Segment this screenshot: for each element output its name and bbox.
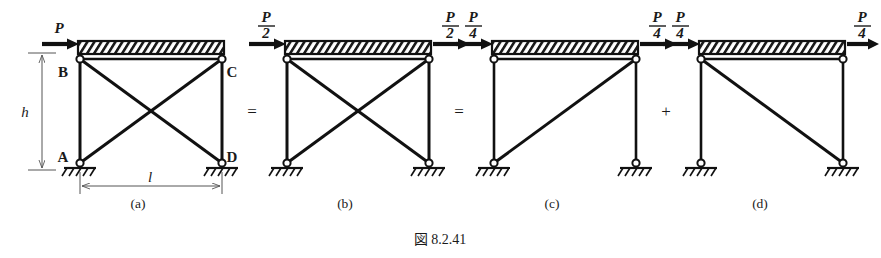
force-denominator-b-right: 2	[445, 25, 454, 41]
force-denominator-d-right: 4	[857, 25, 866, 41]
force-numerator-b-right: P	[445, 9, 455, 25]
rigid-beam-a	[78, 41, 224, 54]
force-denominator-c-right: 4	[652, 25, 661, 41]
joint-d-bottom-left	[697, 159, 704, 166]
node-label-C: C	[227, 64, 238, 80]
joint-d-bottom-right	[839, 159, 846, 166]
panel-label-d: (d)	[752, 196, 768, 211]
force-denominator-b-left: 2	[261, 25, 270, 41]
panel-label-c: (c)	[545, 196, 560, 211]
joint-b-top-left	[283, 55, 290, 62]
node-label-B: B	[58, 64, 68, 80]
joint-d-top-right	[839, 55, 846, 62]
force-denominator-c-left: 4	[468, 25, 477, 41]
operator-equals-1: =	[247, 102, 257, 121]
joint-b-bottom-right	[425, 159, 432, 166]
joint-c-bottom-right	[632, 159, 639, 166]
node-label-D: D	[227, 149, 238, 165]
joint-D	[218, 159, 225, 166]
joint-c-top-left	[490, 55, 497, 62]
joint-B	[76, 55, 83, 62]
force-numerator-c-right: P	[652, 9, 662, 25]
joint-A	[76, 159, 83, 166]
canvas-background	[0, 0, 881, 258]
force-label-P: P	[54, 20, 64, 36]
joint-c-top-right	[632, 55, 639, 62]
truss-decomposition-diagram: B C A D P h l	[0, 0, 881, 258]
operator-equals-2: =	[454, 102, 464, 121]
figure-8-2-41: B C A D P h l	[0, 0, 881, 258]
rigid-beam-b	[285, 41, 431, 54]
joint-C	[218, 55, 225, 62]
panel-label-a: (a)	[131, 196, 146, 211]
force-numerator-b-left: P	[261, 9, 271, 25]
force-numerator-d-left: P	[675, 9, 685, 25]
rigid-beam-d	[699, 41, 845, 54]
span-dimension-label: l	[148, 169, 152, 185]
figure-caption: 図 8.2.41	[414, 232, 467, 247]
height-dimension-label: h	[21, 104, 29, 120]
force-denominator-d-left: 4	[675, 25, 684, 41]
joint-d-top-left	[697, 55, 704, 62]
rigid-beam-c	[492, 41, 638, 54]
force-numerator-c-left: P	[468, 9, 478, 25]
node-label-A: A	[58, 149, 69, 165]
joint-c-bottom-left	[490, 159, 497, 166]
joint-b-bottom-left	[283, 159, 290, 166]
operator-plus-1: +	[661, 102, 671, 121]
joint-b-top-right	[425, 55, 432, 62]
force-numerator-d-right: P	[857, 9, 867, 25]
panel-label-b: (b)	[337, 196, 353, 211]
